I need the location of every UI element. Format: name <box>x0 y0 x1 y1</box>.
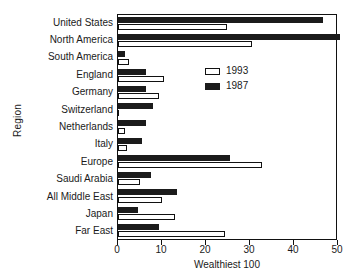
bar-1987 <box>118 103 153 109</box>
bar-1993 <box>118 110 119 116</box>
y-axis-category-labels: United StatesNorth AmericaSouth AmericaE… <box>24 14 116 240</box>
bar-1993 <box>118 162 262 168</box>
bar-group <box>118 32 336 49</box>
legend-label-1987: 1987 <box>226 81 248 91</box>
category-label: North America <box>24 31 116 48</box>
x-tick-label: 0 <box>114 244 120 255</box>
bar-1987 <box>118 69 146 75</box>
bar-1987 <box>118 155 230 161</box>
bar-1993 <box>118 59 129 65</box>
legend-item-1987: 1987 <box>205 81 248 91</box>
chart-legend: 1993 1987 <box>205 66 248 91</box>
category-label: Far East <box>24 223 116 240</box>
bar-1993 <box>118 93 159 99</box>
bar-1993 <box>118 41 252 47</box>
bar-1987 <box>118 172 151 178</box>
bar-1987 <box>118 224 159 230</box>
legend-swatch-1993-icon <box>205 68 220 75</box>
category-label: Europe <box>24 153 116 170</box>
bar-1993 <box>118 214 175 220</box>
legend-swatch-1987-icon <box>205 83 220 90</box>
legend-item-1993: 1993 <box>205 66 248 76</box>
x-tick-label: 50 <box>331 244 342 255</box>
bars-layer <box>118 15 336 239</box>
x-axis-title: Wealthiest 100 <box>117 259 337 270</box>
category-label: Switzerland <box>24 101 116 118</box>
bar-1987 <box>118 34 340 40</box>
bar-group <box>118 170 336 187</box>
bar-group <box>118 118 336 135</box>
bar-group <box>118 136 336 153</box>
bar-1987 <box>118 86 146 92</box>
bar-1993 <box>118 24 227 30</box>
bar-group <box>118 153 336 170</box>
bar-group <box>118 101 336 118</box>
x-tick-label: 30 <box>243 244 254 255</box>
y-axis-title-text: Region <box>12 104 23 137</box>
category-label: England <box>24 66 116 83</box>
category-label: Netherlands <box>24 118 116 135</box>
bar-1993 <box>118 179 140 185</box>
category-label: South America <box>24 49 116 66</box>
bar-1993 <box>118 76 164 82</box>
bar-1987 <box>118 207 138 213</box>
bar-group <box>118 205 336 222</box>
bar-1993 <box>118 231 225 237</box>
bar-1987 <box>118 138 142 144</box>
bar-group <box>118 222 336 239</box>
plot-area <box>117 14 337 240</box>
bar-1987 <box>118 17 323 23</box>
bar-1987 <box>118 51 125 57</box>
x-tick-label: 10 <box>155 244 166 255</box>
bar-group <box>118 187 336 204</box>
category-label: Japan <box>24 205 116 222</box>
x-axis-tick-labels: 01020304050 <box>0 244 353 258</box>
category-label: Italy <box>24 136 116 153</box>
x-tick-label: 20 <box>199 244 210 255</box>
bar-1993 <box>118 145 127 151</box>
bar-chart: Region United StatesNorth AmericaSouth A… <box>0 0 353 280</box>
x-tick-label: 40 <box>287 244 298 255</box>
bar-group <box>118 15 336 32</box>
bar-1993 <box>118 197 162 203</box>
category-label: Germany <box>24 84 116 101</box>
category-label: Saudi Arabia <box>24 171 116 188</box>
category-label: All Middle East <box>24 188 116 205</box>
bar-1987 <box>118 120 146 126</box>
category-label: United States <box>24 14 116 31</box>
bar-1987 <box>118 189 177 195</box>
bar-1993 <box>118 128 125 134</box>
legend-label-1993: 1993 <box>226 66 248 76</box>
